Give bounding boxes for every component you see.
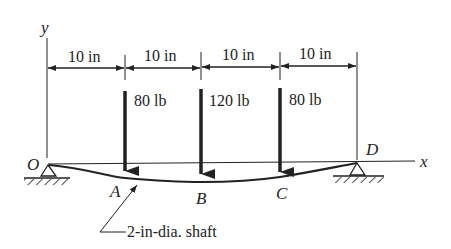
load-a-label: 80 lb bbox=[134, 92, 166, 109]
shaft-diagram: y x 10 in 10 in 10 in 10 in 80 lb 120 lb… bbox=[0, 0, 451, 249]
x-axis-label: x bbox=[419, 152, 428, 171]
point-label-c: C bbox=[276, 184, 288, 203]
point-label-o: O bbox=[27, 155, 39, 174]
point-label-a: A bbox=[109, 182, 121, 201]
load-b-label: 120 lb bbox=[209, 92, 249, 109]
dimension-label-bc: 10 in bbox=[222, 46, 254, 63]
point-label-b: B bbox=[196, 189, 207, 208]
shaft-callout-label: 2-in-dia. shaft bbox=[127, 223, 217, 240]
y-axis: y bbox=[39, 18, 49, 158]
load-b: 120 lb bbox=[201, 89, 249, 174]
y-axis-label: y bbox=[39, 18, 49, 37]
point-label-d: D bbox=[365, 140, 379, 159]
load-c-label: 80 lb bbox=[289, 91, 321, 108]
load-c: 80 lb bbox=[280, 88, 321, 172]
dimension-label-oa: 10 in bbox=[68, 48, 100, 65]
deflected-shaft-curve bbox=[49, 163, 357, 182]
dimension-label-ab: 10 in bbox=[144, 47, 176, 64]
load-a: 80 lb bbox=[125, 91, 166, 171]
dimension-label-cd: 10 in bbox=[299, 45, 331, 62]
